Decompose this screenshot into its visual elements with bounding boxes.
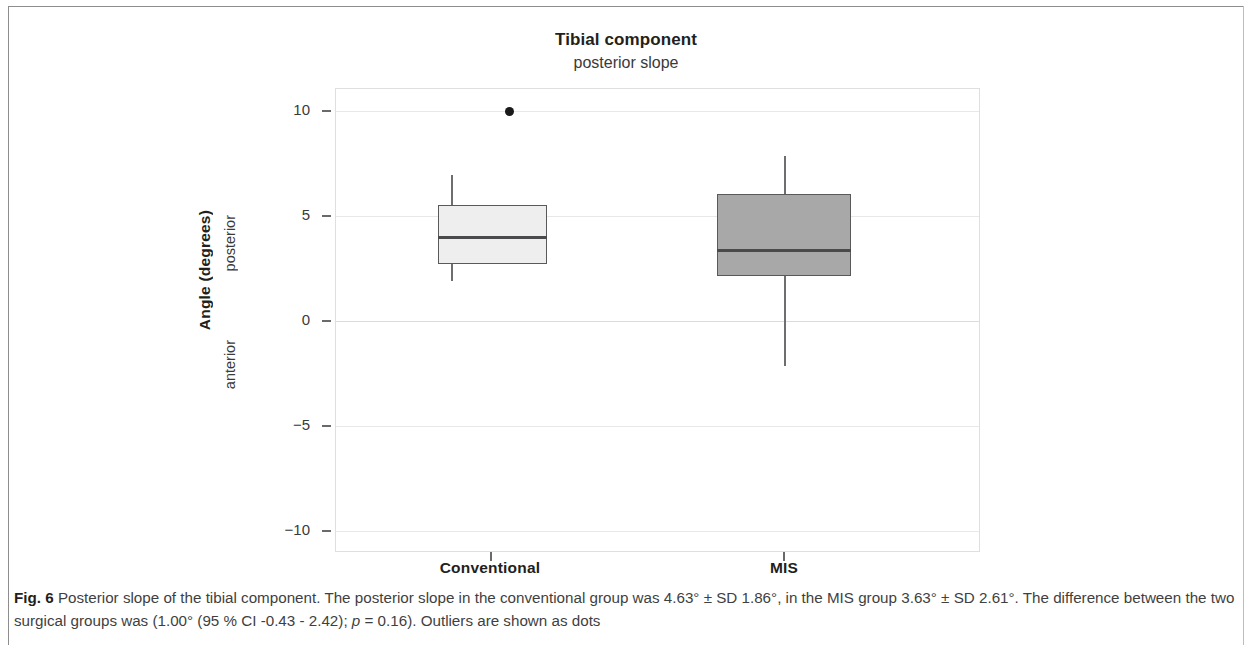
y-tick-mark-minus10: [322, 530, 331, 532]
y-tick-label-10: 10: [256, 101, 310, 118]
gridline-minus10: [336, 531, 979, 532]
whisker-lower-mis: [784, 276, 786, 366]
chart-title: Tibial component: [0, 30, 1252, 50]
caption-p-symbol: p: [352, 612, 360, 629]
figure-frame-right-rule: [1243, 6, 1244, 645]
figure-root: Tibial component posterior slope Angle (…: [0, 0, 1252, 651]
y-tick-label-minus5: −5: [250, 416, 310, 433]
gridline-zero: [336, 321, 979, 322]
gridline-minus5: [336, 426, 979, 427]
caption-figure-number: Fig. 6: [14, 589, 54, 606]
caption-text-part2: = 0.16). Outliers are shown as dots: [360, 612, 600, 629]
outlier-dot-conventional: [505, 107, 514, 116]
y-axis-title: Angle (degrees): [196, 210, 214, 330]
x-tick-label-mis: MIS: [694, 559, 874, 577]
y-tick-label-minus10: −10: [242, 521, 310, 538]
plot-panel: [335, 88, 980, 552]
x-tick-label-conventional: Conventional: [400, 559, 580, 577]
y-tick-label-5: 5: [256, 206, 310, 223]
y-tick-mark-minus5: [322, 425, 331, 427]
box-conventional: [438, 205, 547, 264]
median-line-mis: [717, 249, 851, 252]
caption-text-part1: Posterior slope of the tibial component.…: [14, 589, 1234, 629]
chart-subtitle: posterior slope: [0, 54, 1252, 72]
y-tick-label-0: 0: [256, 311, 310, 328]
y-tick-mark-0: [322, 320, 331, 322]
gridline-10: [336, 111, 979, 112]
median-line-conventional: [438, 236, 547, 239]
box-mis: [717, 194, 851, 276]
whisker-upper-conventional: [451, 175, 453, 206]
figure-caption: Fig. 6 Posterior slope of the tibial com…: [14, 586, 1236, 632]
figure-frame-left-rule: [8, 6, 9, 645]
y-tick-mark-5: [322, 215, 331, 217]
y-axis-sublabel-anterior: anterior: [222, 340, 238, 389]
gridline-5: [336, 216, 979, 217]
figure-frame-top-rule: [8, 6, 1244, 7]
y-axis-sublabel-posterior: posterior: [222, 215, 238, 271]
y-tick-mark-10: [322, 110, 331, 112]
